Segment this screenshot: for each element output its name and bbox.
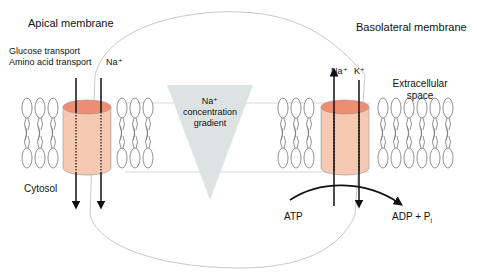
na-ion-label-basolateral: Na⁺ bbox=[331, 66, 348, 77]
amino-acid-transport-label: Amino acid transport bbox=[9, 57, 92, 68]
extracellular-line1: Extracellular bbox=[390, 78, 450, 90]
basolateral-lipid-bilayer-right bbox=[378, 98, 453, 168]
extracellular-line2: space bbox=[390, 90, 450, 102]
apical-membrane-label: Apical membrane bbox=[28, 17, 114, 30]
diagram-canvas bbox=[0, 0, 477, 278]
na-ion-label-apical: Na⁺ bbox=[106, 57, 123, 68]
cytosol-label: Cytosol bbox=[24, 183, 57, 195]
apical-lipid-bilayer-left bbox=[22, 98, 58, 168]
adp-pi-label: ADP + Pi bbox=[392, 211, 432, 225]
pi-subscript: i bbox=[430, 217, 432, 224]
extracellular-space-label: Extracellular space bbox=[390, 78, 450, 102]
apical-lipid-bilayer-right bbox=[117, 98, 153, 168]
atp-hydrolysis-arrow bbox=[290, 185, 399, 203]
gradient-line1: Na⁺ bbox=[180, 96, 240, 107]
gradient-line2: concentration bbox=[180, 107, 240, 118]
apical-transporter-channel bbox=[63, 100, 111, 175]
k-ion-label: K⁺ bbox=[354, 66, 365, 77]
atp-label: ATP bbox=[284, 211, 303, 223]
glucose-transport-label: Glucose transport bbox=[9, 46, 80, 57]
na-gradient-label: Na⁺ concentration gradient bbox=[180, 96, 240, 128]
na-k-pump-channel bbox=[321, 100, 369, 175]
adp-text: ADP + P bbox=[392, 211, 430, 222]
gradient-line3: gradient bbox=[180, 118, 240, 129]
basolateral-membrane-label: Basolateral membrane bbox=[356, 21, 467, 34]
basolateral-lipid-bilayer-left bbox=[278, 98, 314, 168]
